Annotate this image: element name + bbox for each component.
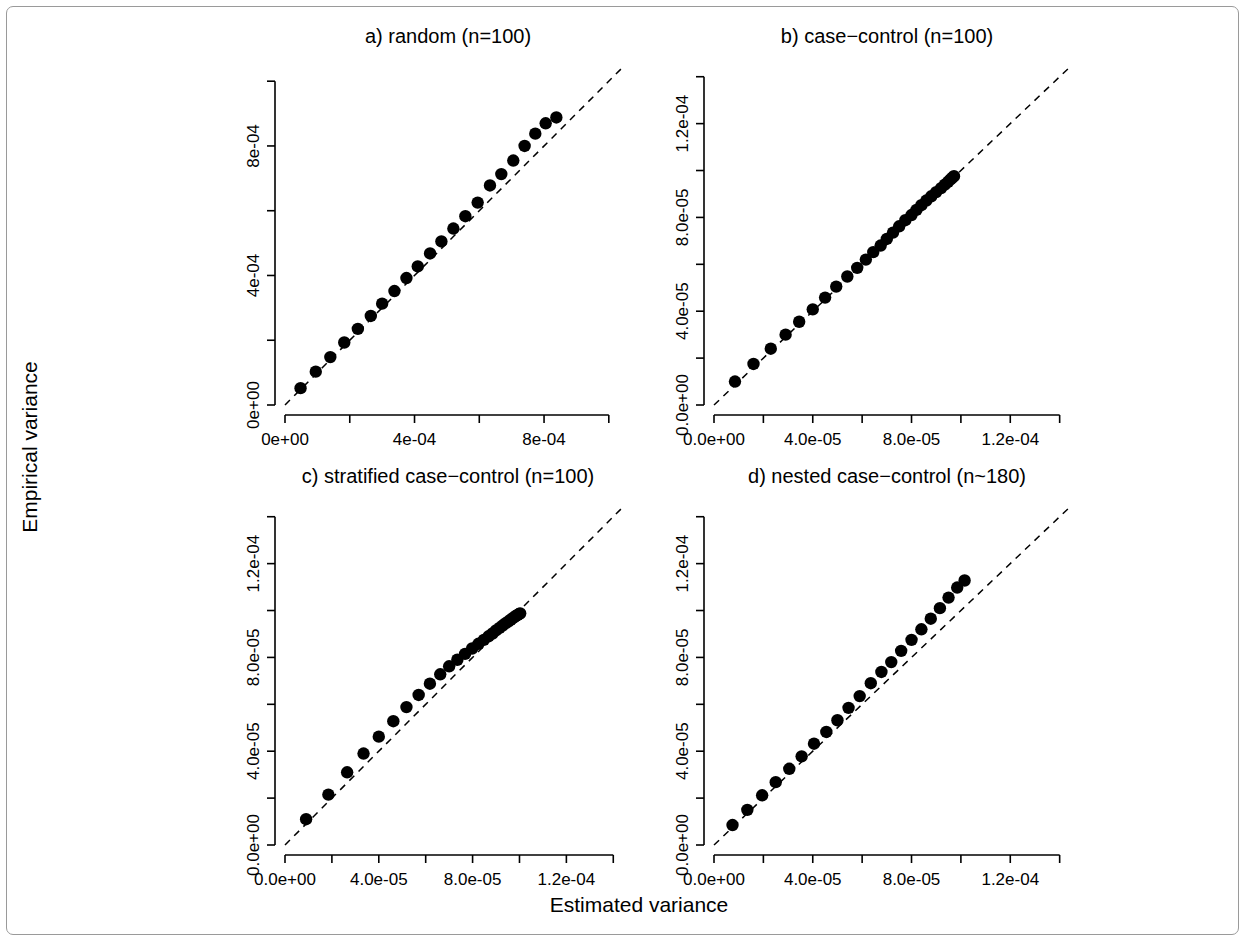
- data-point: [865, 677, 877, 689]
- panel-a-y-tick-label: 8e-04: [244, 124, 263, 167]
- data-point: [807, 303, 819, 315]
- data-point: [783, 763, 795, 775]
- data-point: [875, 666, 887, 678]
- data-point: [529, 127, 541, 139]
- data-point: [726, 819, 738, 831]
- data-point: [507, 154, 519, 166]
- data-point: [322, 788, 334, 800]
- panel-c-y-tick-label: 0.0e+00: [244, 814, 263, 876]
- data-point: [424, 677, 436, 689]
- data-point: [550, 111, 562, 123]
- panel-c-x-tick-label: 8.0e-05: [444, 870, 502, 889]
- data-point: [747, 358, 759, 370]
- data-point: [471, 196, 483, 208]
- data-point: [412, 260, 424, 272]
- figure-frame: a) random (n=100)0e+004e-048e-040e+004e-…: [6, 6, 1239, 935]
- panel-c: c) stratified case−control (n=100)0.0e+0…: [244, 465, 625, 889]
- figure-y-axis-title: Empirical variance: [18, 361, 41, 533]
- data-point: [300, 813, 312, 825]
- data-point: [400, 701, 412, 713]
- data-point: [925, 613, 937, 625]
- data-point: [830, 280, 842, 292]
- data-point: [819, 291, 831, 303]
- data-point: [793, 316, 805, 328]
- panel-b-y-tick-label: 0.0e+00: [673, 374, 692, 436]
- data-point: [388, 285, 400, 297]
- panel-d-x-tick-label: 1.2e-04: [981, 870, 1039, 889]
- data-point: [820, 726, 832, 738]
- panel-d-points: [726, 574, 970, 831]
- data-point: [808, 738, 820, 750]
- data-point: [841, 270, 853, 282]
- data-point: [365, 310, 377, 322]
- data-point: [400, 272, 412, 284]
- data-point: [934, 602, 946, 614]
- panel-c-x-tick-label: 1.2e-04: [538, 870, 596, 889]
- panel-b-x-tick-label: 1.2e-04: [981, 430, 1039, 449]
- panel-c-y-tick-label: 4.0e-05: [244, 722, 263, 780]
- panel-c-reference-line: [285, 505, 625, 845]
- panel-a-title: a) random (n=100): [365, 25, 531, 47]
- data-point: [905, 634, 917, 646]
- data-point: [741, 804, 753, 816]
- data-point: [915, 623, 927, 635]
- data-point: [779, 328, 791, 340]
- panel-a-y-tick-label: 0e+00: [244, 381, 263, 429]
- panel-d: d) nested case−control (n~180)0.0e+004.0…: [673, 465, 1072, 889]
- panel-group: a) random (n=100)0e+004e-048e-040e+004e-…: [244, 25, 1072, 889]
- data-point: [770, 776, 782, 788]
- panel-a-reference-line: [285, 65, 625, 405]
- panel-b-x-tick-label: 4.0e-05: [784, 430, 842, 449]
- data-point: [514, 607, 526, 619]
- data-point: [338, 336, 350, 348]
- data-point: [895, 645, 907, 657]
- data-point: [958, 574, 970, 586]
- data-point: [831, 714, 843, 726]
- data-point: [518, 140, 530, 152]
- panel-b: b) case−control (n=100)0.0e+004.0e-058.0…: [673, 25, 1072, 449]
- panel-c-x-tick-label: 4.0e-05: [350, 870, 408, 889]
- panel-d-x-tick-label: 4.0e-05: [784, 870, 842, 889]
- data-point: [729, 375, 741, 387]
- data-point: [948, 170, 960, 182]
- panel-a-y-tick-label: 4e-04: [244, 254, 263, 297]
- data-point: [756, 789, 768, 801]
- data-point: [424, 247, 436, 259]
- data-point: [294, 382, 306, 394]
- panel-c-title: c) stratified case−control (n=100): [302, 465, 594, 487]
- panel-a-points: [294, 111, 562, 394]
- panel-a-x-tick-label: 0e+00: [261, 430, 309, 449]
- data-point: [842, 702, 854, 714]
- figure-canvas: a) random (n=100)0e+004e-048e-040e+004e-…: [7, 7, 1240, 936]
- panel-a-x-tick-label: 4e-04: [393, 430, 436, 449]
- data-point: [373, 730, 385, 742]
- panel-a: a) random (n=100)0e+004e-048e-040e+004e-…: [244, 25, 625, 449]
- data-point: [310, 365, 322, 377]
- data-point: [341, 766, 353, 778]
- data-point: [447, 222, 459, 234]
- data-point: [357, 747, 369, 759]
- panel-a-x-tick-label: 8e-04: [522, 430, 565, 449]
- panel-b-points: [729, 170, 960, 388]
- data-point: [412, 689, 424, 701]
- data-point: [387, 715, 399, 727]
- panel-b-x-tick-label: 0.0e+00: [683, 430, 745, 449]
- data-point: [495, 168, 507, 180]
- panel-d-y-tick-label: 8.0e-05: [673, 629, 692, 687]
- data-point: [765, 343, 777, 355]
- data-point: [484, 179, 496, 191]
- panel-b-title: b) case−control (n=100): [781, 25, 993, 47]
- panel-d-title: d) nested case−control (n~180): [748, 465, 1026, 487]
- figure-x-axis-title: Estimated variance: [550, 893, 729, 916]
- panel-d-y-tick-label: 4.0e-05: [673, 722, 692, 780]
- data-point: [459, 210, 471, 222]
- panel-c-y-tick-label: 8.0e-05: [244, 629, 263, 687]
- panel-c-y-tick-label: 1.2e-04: [244, 535, 263, 593]
- panel-d-x-tick-label: 8.0e-05: [883, 870, 941, 889]
- panel-c-x-tick-label: 0.0e+00: [254, 870, 316, 889]
- data-point: [795, 750, 807, 762]
- panel-b-x-tick-label: 8.0e-05: [883, 430, 941, 449]
- panel-b-y-tick-label: 8.0e-05: [673, 189, 692, 247]
- panel-c-points: [300, 607, 526, 825]
- data-point: [853, 690, 865, 702]
